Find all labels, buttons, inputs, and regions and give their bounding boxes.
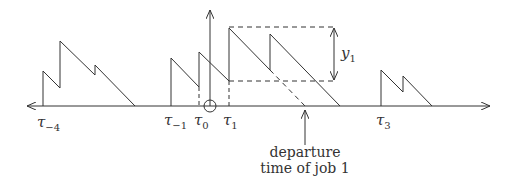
departure-annotation-line1: departure [270,144,341,160]
busy-period-tau-minus1 [171,58,199,106]
job1-departure-dashed [270,70,305,106]
label-tau-minus4: τ−4 [37,113,60,133]
label-tau3: τ3 [376,111,391,131]
busy-period-tau1 [229,28,340,106]
label-tau0: τ0 [194,111,209,131]
busy-period-left [43,41,135,106]
label-tau1: τ1 [223,111,238,131]
busy-period-tau3 [381,70,432,106]
label-y1: y1 [340,44,356,64]
departure-annotation-line2: time of job 1 [260,160,349,176]
busy-period-tau0 [199,52,229,87]
label-tau-minus1: τ−1 [164,111,187,131]
workload-diagram: τ−4 τ−1 τ0 τ1 τ3 y1 departure time of jo… [0,0,513,183]
